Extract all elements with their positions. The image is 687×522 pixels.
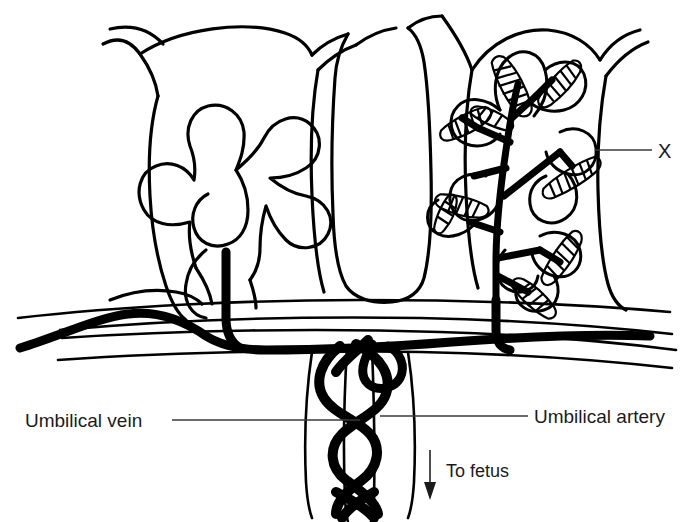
diagram-canvas: Umbilical vein Umbilical artery To fetus…: [0, 0, 687, 522]
umbilical-cord-helix: [319, 340, 387, 518]
label-callout-x: X: [658, 140, 671, 162]
label-umbilical-vein: Umbilical vein: [25, 410, 142, 431]
central-septum: [332, 16, 442, 302]
label-to-fetus: To fetus: [446, 461, 509, 481]
label-umbilical-artery: Umbilical artery: [534, 406, 665, 427]
placenta-diagram-svg: Umbilical vein Umbilical artery To fetus…: [0, 0, 687, 522]
to-fetus-arrow: [424, 450, 436, 500]
